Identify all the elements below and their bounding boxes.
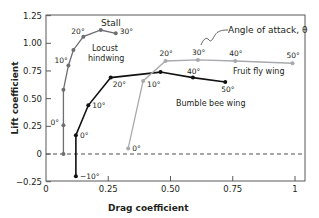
data-point	[196, 58, 200, 62]
data-point	[159, 70, 163, 74]
locust-label-line1: Locust	[92, 44, 118, 53]
x-tick-label: 0.25	[99, 184, 118, 194]
angle-label: 10°	[147, 80, 161, 89]
x-axis-title: Drag coefficient	[108, 203, 189, 213]
data-point	[74, 133, 78, 137]
x-tick-label: 0.50	[161, 184, 180, 194]
angle-label: 30°	[120, 27, 134, 36]
angle-label: 0°	[132, 144, 141, 153]
angle-label: 10°	[54, 56, 68, 65]
data-point	[223, 80, 227, 84]
y-axis-title: Lift coefficient	[10, 61, 20, 135]
angle-label: 40°	[187, 67, 201, 76]
angle-label: 50°	[221, 85, 235, 94]
angle-label: 30°	[192, 48, 206, 57]
x-tick-label: 0	[43, 184, 48, 194]
x-tick-label: 0.75	[223, 184, 242, 194]
data-point	[126, 146, 130, 150]
data-point	[61, 88, 65, 92]
angle-label: 0°	[50, 118, 59, 127]
angle-label: 20°	[113, 80, 127, 89]
angle-of-attack-label: Angle of attack, θ	[228, 25, 308, 35]
y-tick-label: 1.00	[23, 38, 42, 48]
lift-drag-chart: 1.251.000.750.500.250−0.25 00.250.500.75…	[0, 0, 319, 218]
locust-label-line2: hindwing	[88, 54, 124, 63]
data-point	[141, 79, 145, 83]
angle-label: 40°	[229, 49, 243, 58]
plot-frame	[46, 15, 305, 181]
data-point	[71, 48, 75, 52]
data-point	[114, 31, 118, 35]
data-point	[233, 59, 237, 63]
bumble-bee-label: Bumble bee wing	[176, 99, 246, 108]
x-tick-label: 1	[292, 184, 297, 194]
data-point	[61, 123, 65, 127]
angle-label: −10°	[80, 172, 100, 181]
y-tick-label: 0.50	[23, 94, 42, 104]
y-tick-label: −0.25	[16, 177, 42, 187]
stall-label: Stall	[101, 18, 121, 28]
y-tick-label: 0	[37, 149, 42, 159]
angle-label: 0°	[80, 131, 89, 140]
y-tick-label: 0.25	[23, 121, 42, 131]
chart-svg: 1.251.000.750.500.250−0.25 00.250.500.75…	[0, 0, 319, 218]
angle-label: 20°	[160, 49, 174, 58]
data-point	[61, 152, 65, 156]
data-point	[164, 59, 168, 63]
data-point	[291, 61, 295, 65]
angle-label: 50°	[287, 51, 301, 60]
data-point	[74, 174, 78, 178]
angle-leader-squiggle	[201, 30, 228, 45]
angle-label: 10°	[92, 101, 106, 110]
data-point	[99, 28, 103, 32]
y-tick-label: 1.25	[23, 11, 42, 21]
angle-label: 20°	[71, 27, 85, 36]
data-point	[191, 76, 195, 80]
y-tick-label: 0.75	[23, 66, 42, 76]
data-point	[86, 103, 90, 107]
fruit-fly-label: Fruit fly wing	[233, 67, 285, 76]
